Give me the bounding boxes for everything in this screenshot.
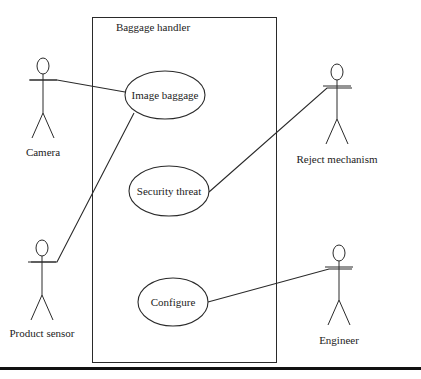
actor-head [333,245,345,261]
actor-left-leg [31,295,42,320]
association-reject-security [209,88,352,192]
actor-engineer-icon [325,245,353,325]
association-engineer-configure [208,269,352,302]
association-product-sensor-image [31,113,134,262]
actor-label-engineer: Engineer [319,335,359,346]
diagram-canvas: Baggage handler Image baggage Security t… [0,0,421,379]
actor-head [331,64,343,80]
system-title: Baggage handler [116,22,190,33]
actor-right-leg [339,300,350,325]
actor-product-sensor-icon [28,240,56,320]
actor-reject-icon [323,64,351,144]
actor-left-leg [32,113,43,138]
actor-left-leg [326,119,337,144]
use-case-label-image-baggage: Image baggage [132,90,199,101]
association-camera-image [30,80,125,92]
use-case-label-configure: Configure [151,297,196,308]
actor-right-leg [43,113,54,138]
use-case-diagram [0,0,421,379]
page-bottom-rule [0,367,421,370]
actor-head [36,240,48,256]
actor-label-product-sensor: Product sensor [9,328,74,339]
actor-camera-icon [29,58,57,138]
use-case-label-security-threat: Security threat [137,186,201,197]
actor-right-leg [337,119,348,144]
actor-left-leg [328,300,339,325]
actor-label-reject-mechanism: Reject mechanism [297,154,378,165]
use-cases [125,71,209,326]
actor-right-leg [42,295,53,320]
actor-label-camera: Camera [26,147,60,158]
actor-head [37,58,49,74]
